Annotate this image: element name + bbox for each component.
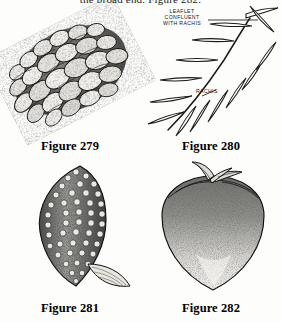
annotation-leaflet-confluent-with-rachis: LEAFLET CONFLUENT WITH RACHIS	[153, 8, 211, 27]
annotation-leaflet-line-3: WITH RACHIS	[153, 20, 211, 26]
annotation-rachis: RACHIS	[196, 88, 230, 94]
figure-282-fruit	[146, 158, 280, 294]
figure-281-catkin	[14, 160, 140, 294]
illustration-page: the broad end. Figure 282.	[0, 0, 281, 322]
pine-cone-drawing	[2, 4, 138, 136]
figure-279-caption: Figure 279	[0, 139, 140, 154]
figure-279-pine-cone	[2, 4, 138, 136]
figure-282-caption: Figure 282	[141, 301, 281, 316]
catkin-drawing	[14, 160, 140, 294]
figure-280-caption: Figure 280	[141, 139, 281, 154]
fruit-drawing	[146, 158, 280, 294]
figure-281-caption: Figure 281	[0, 301, 140, 316]
